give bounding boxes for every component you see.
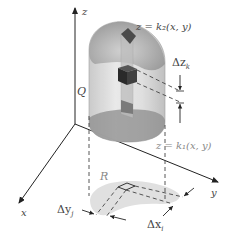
z-axis-label: z <box>81 6 88 17</box>
delta-x-text: Δx <box>147 218 162 231</box>
lower-surface-label: z = k₁(x, y) <box>155 140 212 151</box>
triple-integral-diagram: z x y R Q z = k₂(x, y) z = k₁(x, y) <box>0 0 232 243</box>
volume-element-cube <box>118 65 137 85</box>
delta-x-label: Δxi <box>147 218 163 233</box>
upper-surface-label: z = k₂(x, y) <box>135 21 192 32</box>
solid-q <box>89 22 165 142</box>
y-axis-label: y <box>210 187 217 198</box>
delta-y-text: Δy <box>57 203 72 216</box>
delta-z-subscript: k <box>186 63 190 71</box>
x-axis-label: x <box>21 207 27 218</box>
delta-z-text: Δz <box>172 56 186 69</box>
delta-y-label: Δyj <box>57 203 74 218</box>
solid-label: Q <box>77 85 86 98</box>
x-axis <box>19 124 75 203</box>
delta-z-label: Δzk <box>172 56 190 71</box>
region-label: R <box>99 170 108 183</box>
delta-x-subscript: i <box>161 225 163 233</box>
